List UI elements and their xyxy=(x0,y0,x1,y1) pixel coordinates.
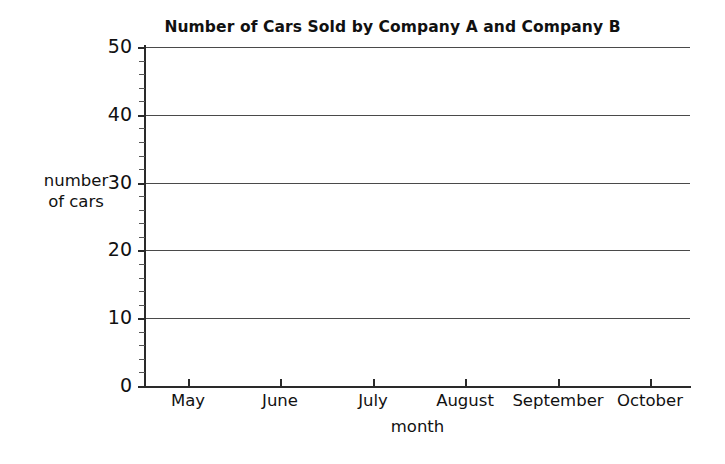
y-axis-label-20: 20 xyxy=(88,240,132,259)
y-axis-label-50: 50 xyxy=(88,37,132,56)
y-axis-title-line-2: of cars xyxy=(28,191,124,212)
y-minor-tick-46 xyxy=(139,74,145,75)
y-minor-tick-28 xyxy=(139,196,145,197)
y-minor-tick-42 xyxy=(139,101,145,102)
x-tick-august xyxy=(465,379,467,387)
y-axis-label-40: 40 xyxy=(88,105,132,124)
y-tick-30 xyxy=(138,183,146,185)
y-minor-tick-38 xyxy=(139,128,145,129)
x-axis-line xyxy=(144,386,691,388)
chart-container: Number of Cars Sold by Company A and Com… xyxy=(0,0,725,464)
x-axis-label-october: October xyxy=(590,391,710,411)
gridline-20 xyxy=(145,250,690,251)
y-minor-tick-6 xyxy=(139,345,145,346)
x-axis-title: month xyxy=(145,417,690,436)
y-axis-title: number of cars xyxy=(28,170,124,212)
y-axis-label-0: 0 xyxy=(88,376,132,395)
y-tick-0 xyxy=(138,386,146,388)
y-axis-line xyxy=(144,45,146,388)
y-minor-tick-26 xyxy=(139,210,145,211)
y-minor-tick-14 xyxy=(139,291,145,292)
y-tick-10 xyxy=(138,318,146,320)
y-minor-tick-8 xyxy=(139,332,145,333)
x-tick-may xyxy=(188,379,190,387)
y-minor-tick-22 xyxy=(139,237,145,238)
y-minor-tick-34 xyxy=(139,156,145,157)
y-minor-tick-16 xyxy=(139,278,145,279)
y-axis-label-10: 10 xyxy=(88,308,132,327)
plot-area xyxy=(145,47,690,386)
y-tick-50 xyxy=(138,47,146,49)
y-minor-tick-36 xyxy=(139,142,145,143)
gridline-40 xyxy=(145,115,690,116)
y-minor-tick-12 xyxy=(139,305,145,306)
y-minor-tick-4 xyxy=(139,359,145,360)
gridline-50 xyxy=(145,47,690,48)
y-minor-tick-24 xyxy=(139,223,145,224)
y-minor-tick-44 xyxy=(139,88,145,89)
gridline-30 xyxy=(145,183,690,184)
y-tick-40 xyxy=(138,115,146,117)
y-minor-tick-18 xyxy=(139,264,145,265)
chart-title: Number of Cars Sold by Company A and Com… xyxy=(0,18,725,36)
x-tick-september xyxy=(558,379,560,387)
y-tick-20 xyxy=(138,250,146,252)
x-tick-july xyxy=(373,379,375,387)
y-minor-tick-32 xyxy=(139,169,145,170)
y-axis-title-line-1: number xyxy=(28,170,124,191)
gridline-10 xyxy=(145,318,690,319)
y-minor-tick-48 xyxy=(139,61,145,62)
x-tick-october xyxy=(650,379,652,387)
x-tick-june xyxy=(280,379,282,387)
y-minor-tick-2 xyxy=(139,372,145,373)
